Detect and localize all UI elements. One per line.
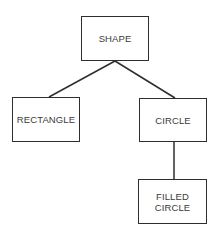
node-rectangle-label: RECTANGLE	[17, 114, 75, 125]
node-shape-label: SHAPE	[99, 33, 132, 44]
node-filled-circle: FILLED CIRCLE	[138, 179, 207, 224]
node-circle: CIRCLE	[139, 98, 207, 142]
node-rectangle: RECTANGLE	[12, 97, 80, 142]
edge-shape-circle	[115, 61, 175, 98]
edge-shape-rectangle	[49, 61, 115, 97]
node-shape: SHAPE	[81, 16, 149, 61]
node-circle-label: CIRCLE	[155, 115, 190, 126]
node-filled-circle-label: FILLED CIRCLE	[155, 191, 190, 213]
